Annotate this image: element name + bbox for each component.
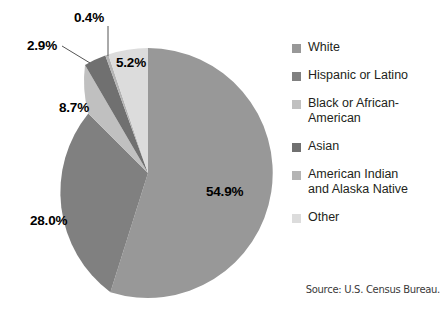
legend-item-label: White <box>308 40 340 55</box>
legend-swatch-icon <box>292 214 301 223</box>
legend-item-black-or-african-american[interactable]: Black or African- American <box>292 96 442 126</box>
legend-item-label: Asian <box>308 139 339 154</box>
slice-value-label-other: 5.2% <box>116 55 146 70</box>
pie-chart-figure: 54.9% 28.0% 8.7% 2.9% 0.4% 5.2% White Hi… <box>0 0 448 311</box>
legend-item-hispanic-or-latino[interactable]: Hispanic or Latino <box>292 68 442 83</box>
legend-item-asian[interactable]: Asian <box>292 139 442 154</box>
slice-value-label-white: 54.9% <box>206 184 243 199</box>
slice-value-label-american-indian: 0.4% <box>74 10 104 25</box>
legend-item-american-indian-and-alaska-native[interactable]: American Indian and Alaska Native <box>292 167 442 197</box>
slice-value-label-black: 8.7% <box>59 100 89 115</box>
legend-item-label: Other <box>308 210 339 225</box>
legend-item-label: American Indian and Alaska Native <box>308 167 408 197</box>
legend-swatch-icon <box>292 72 301 81</box>
legend-item-white[interactable]: White <box>292 40 442 55</box>
legend-item-label: Hispanic or Latino <box>308 68 408 83</box>
pie-plot-area: 54.9% 28.0% 8.7% 2.9% 0.4% 5.2% <box>0 0 290 311</box>
legend-item-other[interactable]: Other <box>292 210 442 225</box>
legend-swatch-icon <box>292 171 301 180</box>
leader-line-asian <box>62 46 90 63</box>
legend-swatch-icon <box>292 143 301 152</box>
legend: White Hispanic or Latino Black or Africa… <box>292 40 442 238</box>
slice-value-label-hispanic: 28.0% <box>30 213 67 228</box>
source-note: Source: U.S. Census Bureau. <box>306 284 440 295</box>
slice-value-label-asian: 2.9% <box>27 38 57 53</box>
legend-swatch-icon <box>292 44 301 53</box>
legend-swatch-icon <box>292 100 301 109</box>
legend-item-label: Black or African- American <box>308 96 399 126</box>
